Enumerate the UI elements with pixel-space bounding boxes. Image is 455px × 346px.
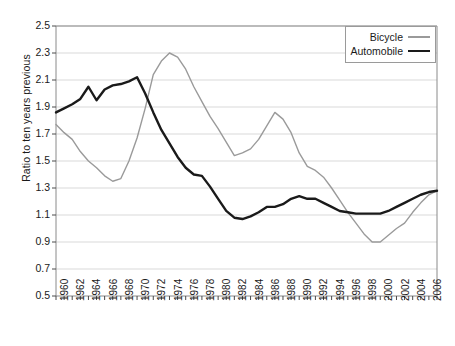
x-tick-label: 2006 — [433, 279, 443, 301]
line-chart: Ratio to ten years previous 0.50.70.91.1… — [0, 0, 455, 346]
x-tick-label: 1992 — [319, 279, 329, 301]
x-tick-label: 1984 — [255, 279, 265, 301]
x-tick-label: 1986 — [271, 279, 281, 301]
x-tick-label: 1972 — [157, 279, 167, 301]
legend-swatch-bicycle — [408, 36, 430, 38]
x-tick-label: 1960 — [60, 279, 70, 301]
legend-label-bicycle: Bicycle — [370, 31, 403, 43]
x-tick-label: 1980 — [222, 279, 232, 301]
x-tick-label: 1982 — [238, 279, 248, 301]
x-tick-label: 1970 — [141, 279, 151, 301]
legend-swatch-automobile — [408, 50, 430, 53]
x-tick-label: 1962 — [76, 279, 86, 301]
x-tick-label: 1994 — [336, 279, 346, 301]
x-tick-label: 1998 — [368, 279, 378, 301]
chart-legend: Bicycle Automobile — [345, 26, 436, 63]
x-tick-label: 2002 — [401, 279, 411, 301]
legend-item-automobile: Automobile — [353, 44, 430, 58]
x-tick-label: 2000 — [384, 279, 394, 301]
x-tick-label: 1966 — [109, 279, 119, 301]
x-tick-label: 1974 — [174, 279, 184, 301]
legend-label-automobile: Automobile — [350, 45, 403, 57]
x-tick-label: 1990 — [303, 279, 313, 301]
x-tick-label: 2004 — [417, 279, 427, 301]
x-tick-label: 1978 — [206, 279, 216, 301]
legend-item-bicycle: Bicycle — [353, 30, 430, 44]
x-tick-label: 1964 — [92, 279, 102, 301]
x-tick-label: 1988 — [287, 279, 297, 301]
x-tick-label: 1968 — [125, 279, 135, 301]
x-tick-label: 1996 — [352, 279, 362, 301]
x-tick-label: 1976 — [190, 279, 200, 301]
